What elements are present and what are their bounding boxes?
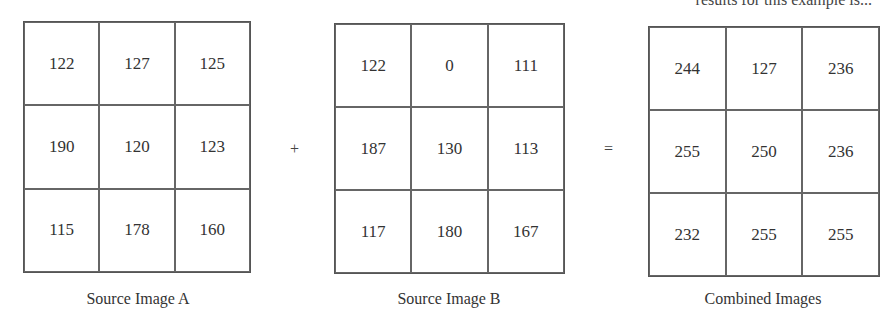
grid-b-cell: 117 [335,190,411,273]
grid-c-cell: 244 [649,27,726,110]
cropped-header-text: results for this example is... [0,0,892,9]
grid-a-cell: 123 [175,105,250,188]
equals-operator: = [604,140,613,158]
grid-b-cell: 167 [488,190,564,273]
grid-a-cell: 190 [24,105,99,188]
grid-c-cell: 232 [649,193,726,276]
plus-operator: + [290,140,299,158]
source-image-a-grid: 122 127 125 190 120 123 115 178 160 [23,21,251,273]
grid-b-cell: 0 [411,24,487,107]
grid-b-cell: 180 [411,190,487,273]
grid-a-cell: 178 [99,189,174,272]
grid-b-cell: 111 [488,24,564,107]
grid-c-cell: 127 [726,27,803,110]
grid-b-cell: 113 [488,107,564,190]
grid-c-cell: 255 [726,193,803,276]
source-image-b-grid: 122 0 111 187 130 113 117 180 167 [334,23,565,274]
grid-b-cell: 130 [411,107,487,190]
grid-c-cell: 236 [802,110,879,193]
source-image-b-caption: Source Image B [334,290,564,308]
grid-c-cell: 255 [802,193,879,276]
grid-a-cell: 125 [175,22,250,105]
grid-b-cell: 187 [335,107,411,190]
grid-c-cell: 236 [802,27,879,110]
grid-c-cell: 255 [649,110,726,193]
combined-images-caption: Combined Images [648,290,878,308]
combined-images-grid: 244 127 236 255 250 236 232 255 255 [648,26,880,277]
grid-c-cell: 250 [726,110,803,193]
grid-b-cell: 122 [335,24,411,107]
grid-a-cell: 160 [175,189,250,272]
grid-a-cell: 120 [99,105,174,188]
grid-a-cell: 115 [24,189,99,272]
grid-a-cell: 127 [99,22,174,105]
grid-a-cell: 122 [24,22,99,105]
source-image-a-caption: Source Image A [23,290,253,308]
